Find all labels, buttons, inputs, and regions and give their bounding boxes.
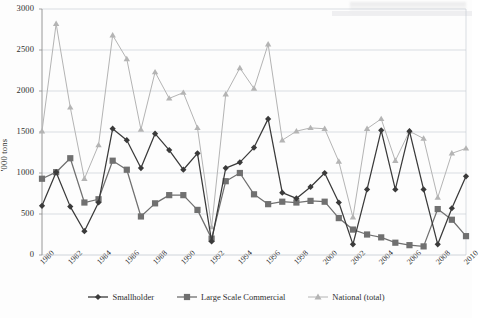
legend-label: National (total) (332, 292, 384, 302)
data-point-square (194, 207, 200, 213)
series-smallholder (39, 116, 469, 248)
data-point-square (435, 206, 441, 212)
data-point-square (421, 243, 427, 249)
legend-item[interactable]: National (total) (307, 292, 384, 302)
data-point-triangle (223, 91, 229, 96)
data-point-triangle (124, 56, 130, 61)
legend-item[interactable]: Large Scale Commercial (176, 292, 285, 302)
data-point-triangle (435, 194, 441, 199)
data-point-square (110, 158, 116, 164)
data-point-diamond (39, 203, 45, 209)
data-point-triangle (39, 128, 45, 133)
data-point-square (67, 155, 73, 161)
data-point-triangle (109, 32, 115, 37)
data-point-diamond (435, 241, 441, 247)
data-point-diamond (392, 186, 398, 192)
data-point-square (124, 167, 130, 173)
data-point-diamond (279, 190, 285, 196)
data-point-triangle (307, 125, 313, 130)
data-point-square (392, 240, 398, 246)
data-point-diamond (81, 228, 87, 234)
data-point-square (307, 198, 313, 204)
data-point-square (251, 191, 257, 197)
data-point-square (449, 217, 455, 223)
legend-item[interactable]: Smallholder (87, 292, 154, 302)
data-point-triangle (67, 104, 73, 109)
data-point-diamond (378, 127, 384, 133)
chart-legend: SmallholderLarge Scale CommercialNationa… (0, 292, 472, 302)
data-point-square (39, 176, 45, 182)
data-point-triangle (392, 158, 398, 163)
data-point-triangle (336, 158, 342, 163)
data-point-square (279, 199, 285, 205)
gridlines (42, 9, 466, 255)
data-point-square (378, 234, 384, 240)
data-point-diamond (67, 204, 73, 210)
data-point-square (184, 294, 190, 300)
data-point-square (138, 213, 144, 219)
data-point-square (265, 201, 271, 207)
data-point-triangle (265, 41, 271, 46)
legend-marker-diamond-icon (87, 292, 109, 302)
data-point-diamond (223, 165, 229, 171)
data-point-triangle (463, 145, 469, 150)
series-national-total (39, 21, 469, 230)
data-point-triangle (180, 89, 186, 94)
data-point-square (364, 231, 370, 237)
data-point-triangle (152, 69, 158, 74)
data-point-triangle (237, 65, 243, 70)
data-point-square (463, 233, 469, 239)
data-point-square (237, 170, 243, 176)
legend-label: Smallholder (112, 292, 154, 302)
data-point-square (350, 226, 356, 232)
legend-marker-triangle-icon (307, 292, 329, 302)
data-point-square (336, 215, 342, 221)
data-point-diamond (449, 205, 455, 211)
series-line (42, 158, 466, 246)
legend-marker-square-icon (176, 292, 198, 302)
data-point-diamond (364, 186, 370, 192)
data-point-square (152, 200, 158, 206)
data-point-square (406, 242, 412, 248)
data-point-diamond (138, 165, 144, 171)
data-point-triangle (95, 142, 101, 147)
data-point-triangle (364, 126, 370, 131)
data-point-triangle (378, 116, 384, 121)
series-large-scale-commercial (39, 155, 469, 249)
data-point-triangle (279, 137, 285, 142)
data-point-diamond (421, 186, 427, 192)
data-point-square (81, 199, 87, 205)
data-point-diamond (350, 241, 356, 247)
data-point-square (166, 192, 172, 198)
data-point-diamond (265, 116, 271, 122)
data-point-triangle (194, 125, 200, 130)
data-point-diamond (463, 173, 469, 179)
data-point-triangle (53, 21, 59, 26)
data-point-square (322, 199, 328, 205)
data-point-triangle (138, 126, 144, 131)
data-point-diamond (95, 294, 101, 300)
data-point-triangle (350, 214, 356, 219)
data-point-diamond (336, 199, 342, 205)
data-point-triangle (420, 135, 426, 140)
data-point-square (180, 192, 186, 198)
legend-label: Large Scale Commercial (201, 292, 285, 302)
data-point-triangle (81, 176, 87, 181)
